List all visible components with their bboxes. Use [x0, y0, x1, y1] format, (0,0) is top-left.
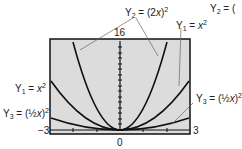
y-max-label: 16	[114, 28, 125, 38]
x-min-label: −3	[38, 126, 49, 136]
x-max-label: 3	[193, 126, 199, 136]
x-origin-label: 0	[117, 138, 123, 148]
annotation-y2: Y2 = (2x)2	[125, 6, 168, 19]
annotation-y3-left: Y3 = (½x)2	[3, 107, 49, 120]
annotation-y3-right: Y3 = (½x)2	[196, 92, 242, 105]
annotation-truncated: Y2 = (	[210, 4, 235, 15]
annotation-y1-left: Y1 = x2	[15, 82, 46, 95]
annotation-y1-right: Y1 = x2	[176, 19, 207, 32]
